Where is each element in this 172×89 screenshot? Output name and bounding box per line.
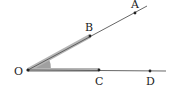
label-B: B (85, 21, 93, 34)
point-A (134, 12, 137, 15)
ray-OA (28, 6, 147, 70)
point-O (26, 68, 29, 71)
point-D (149, 70, 152, 73)
point-C (98, 69, 101, 72)
label-O: O (14, 65, 23, 78)
point-B (89, 35, 92, 38)
label-C: C (95, 75, 103, 88)
label-D: D (146, 75, 155, 88)
label-A: A (130, 0, 140, 11)
angle-diagram: O A B C D (0, 0, 172, 89)
